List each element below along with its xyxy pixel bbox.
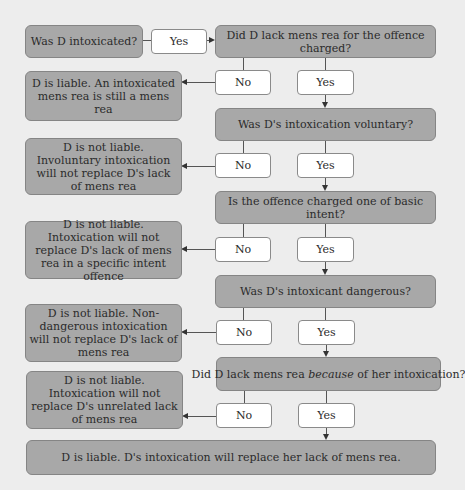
question-1: Did D lack mens rea for the offence char… [216,29,435,55]
no-label: No [235,159,251,172]
no-box-3: No [215,237,271,262]
outcome-5: D is not liable. Intoxication will not r… [31,374,178,426]
outcome-box-5: D is not liable. Intoxication will not r… [26,371,183,429]
start-question-box: Was D intoxicated? [25,25,143,58]
connector [186,249,215,250]
question-5: Did D lack mens rea because of her intox… [192,368,465,381]
yes-label: Yes [317,326,335,339]
yes-label: Yes [317,409,335,422]
no-label: No [236,409,252,422]
question-4: Was D's intoxicant dangerous? [240,285,411,298]
final-outcome-box: D is liable. D's intoxication will repla… [26,440,436,475]
outcome-box-4: D is not liable. Non-dangerous intoxicat… [25,304,182,362]
connector [325,224,326,237]
no-box-1: No [215,70,271,95]
no-box-4: No [216,320,272,345]
yes-label: Yes [316,159,334,172]
connector [143,40,151,41]
start-yes-label: Yes [170,35,188,48]
question-2: Was D's intoxication voluntary? [238,118,413,131]
yes-box-3: Yes [297,237,354,262]
outcome-4: D is not liable. Non-dangerous intoxicat… [28,307,179,359]
connector [243,224,244,237]
connector [187,416,216,417]
outcome-box-1: D is liable. An intoxicated mens rea is … [25,71,182,121]
outcome-box-2: D is not liable. Involuntary intoxicatio… [25,138,182,195]
outcome-3: D is not liable. Intoxication will not r… [32,218,175,283]
yes-label: Yes [316,243,334,256]
no-label: No [236,326,252,339]
question-box-2: Was D's intoxication voluntary? [215,108,436,141]
connector [186,166,215,167]
question-box-3: Is the offence charged one of basic inte… [215,191,436,224]
question-box-1: Did D lack mens rea for the offence char… [215,25,436,58]
question-3: Is the offence charged one of basic inte… [216,195,435,221]
outcome-2: D is not liable. Involuntary intoxicatio… [30,141,177,193]
yes-label: Yes [316,76,334,89]
yes-box-2: Yes [297,153,354,178]
outcome-1: D is liable. An intoxicated mens rea is … [28,77,179,116]
yes-box-1: Yes [297,70,354,95]
no-box-2: No [215,153,271,178]
question-box-4: Was D's intoxicant dangerous? [215,275,436,308]
no-label: No [235,76,251,89]
start-question: Was D intoxicated? [31,35,137,48]
no-box-5: No [216,403,272,428]
start-yes-box: Yes [151,29,207,54]
outcome-box-3: D is not liable. Intoxication will not r… [25,221,182,279]
connector [186,332,216,333]
final-outcome: D is liable. D's intoxication will repla… [61,451,400,464]
no-label: No [235,243,251,256]
question-box-5: Did D lack mens rea because of her intox… [216,357,441,391]
yes-box-5: Yes [298,403,355,428]
yes-box-4: Yes [298,320,355,345]
connector [186,82,215,83]
